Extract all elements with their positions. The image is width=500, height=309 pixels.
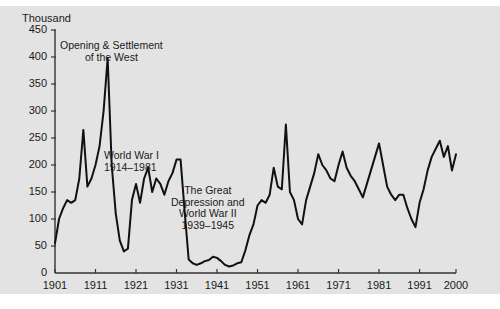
x-tick-label: 1981 xyxy=(359,279,399,291)
y-tick-label: 100 xyxy=(17,212,47,224)
x-tick-label: 1901 xyxy=(35,279,75,291)
y-tick-label: 250 xyxy=(17,131,47,143)
x-tick-label: 1941 xyxy=(197,279,237,291)
y-tick-label: 0 xyxy=(17,266,47,278)
annotation-world-war-one: World War I 1914–1981 xyxy=(104,150,159,173)
annotation-opening-west: Opening & Settlement of the West xyxy=(60,40,163,63)
annotation-great-depression-wwii: The Great Depression and World War II 19… xyxy=(171,185,245,231)
x-tick-label: 1911 xyxy=(76,279,116,291)
y-tick-label: 300 xyxy=(17,104,47,116)
y-tick-label: 350 xyxy=(17,77,47,89)
x-tick-label: 1991 xyxy=(400,279,440,291)
y-tick-label: 400 xyxy=(17,50,47,62)
y-tick-label: 200 xyxy=(17,158,47,170)
y-tick-label: 150 xyxy=(17,185,47,197)
x-tick-label: 1961 xyxy=(278,279,318,291)
y-tick-label: 50 xyxy=(17,239,47,251)
x-tick-label: 1931 xyxy=(157,279,197,291)
x-tick-label: 1921 xyxy=(116,279,156,291)
y-tick-label: 450 xyxy=(17,23,47,35)
x-tick-label: 1971 xyxy=(319,279,359,291)
x-tick-label: 1951 xyxy=(238,279,278,291)
chart-figure: Thousand 050100150200250300350400450 190… xyxy=(0,0,500,309)
x-tick-label: 2000 xyxy=(436,279,476,291)
